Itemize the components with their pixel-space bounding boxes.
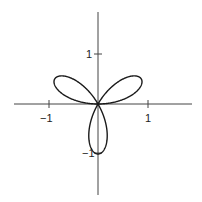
x-tick-label-neg1: −1 (40, 112, 53, 124)
x-tick-label-1: 1 (145, 112, 151, 124)
polar-plot: −1 1 1 −1 (0, 0, 202, 202)
y-tick-label-1: 1 (86, 48, 92, 60)
y-tick-label-neg1: −1 (82, 147, 95, 159)
